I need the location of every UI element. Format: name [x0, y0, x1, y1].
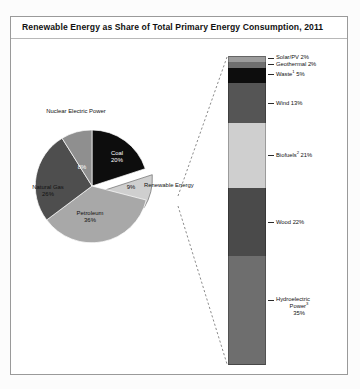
chart-figure: Renewable Energy as Share of Total Prima… — [0, 0, 360, 389]
bar-label-biofuels-value: 21% — [299, 152, 312, 158]
bar-label-hydro-line1: Hydroelectric — [276, 296, 310, 302]
bar-label-hydroelectric: Hydroelectric Power3 35% — [276, 296, 328, 318]
bar-label-waste-text: Waste — [276, 71, 292, 77]
pie-value-nuclear: 8% — [70, 164, 94, 171]
tick-wind — [268, 103, 274, 104]
bar-segment-wind — [228, 83, 266, 123]
pie-value-natural-gas: 26% — [22, 191, 74, 198]
bar-label-wind: Wind 13% — [276, 100, 302, 107]
stacked-bar-chart — [228, 56, 266, 365]
bar-label-hydro-value: 35% — [276, 310, 322, 317]
bar-label-biofuels: Biofuels2 21% — [276, 152, 312, 159]
bar-label-waste-value: 5% — [295, 71, 305, 77]
title-divider — [11, 38, 347, 39]
tick-solar — [268, 58, 274, 59]
tick-waste — [268, 74, 274, 75]
bar-segment-hydroelectric — [228, 256, 266, 365]
bar-segment-wood — [228, 188, 266, 256]
pie-label-renewable-line1: Renewable Energy — [144, 182, 188, 189]
tick-hydroelectric — [268, 300, 274, 301]
pie-value-renewable: 9% — [120, 184, 142, 191]
bar-label-waste: Waste1 5% — [276, 71, 305, 78]
pie-value-petroleum: 36% — [64, 217, 116, 224]
bar-label-biofuels-text: Biofuels — [276, 152, 297, 158]
tick-biofuels — [268, 155, 274, 156]
bar-segment-biofuels — [228, 123, 266, 188]
pie-chart: Nuclear Electric Power 8% Natural Gas 26… — [24, 128, 174, 248]
bar-label-hydro-footnote: 3 — [306, 301, 308, 306]
figure-title: Renewable Energy as Share of Total Prima… — [22, 22, 342, 32]
pie-label-nuclear: Nuclear Electric Power — [28, 108, 124, 115]
bar-label-wood: Wood 22% — [276, 219, 304, 226]
pie-value-coal: 20% — [102, 157, 132, 164]
tick-geothermal — [268, 64, 274, 65]
bar-segment-waste — [228, 68, 266, 83]
bar-label-hydro-line2: Power — [290, 303, 306, 309]
bar-label-geothermal: Geothermal 2% — [276, 61, 316, 68]
tick-wood — [268, 222, 274, 223]
